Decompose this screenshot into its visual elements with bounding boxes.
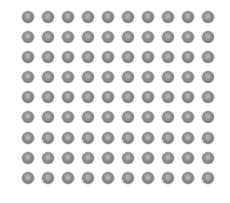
coin	[62, 31, 74, 43]
coin	[202, 31, 214, 43]
coin	[42, 31, 54, 43]
coin	[202, 132, 214, 144]
coin	[82, 71, 94, 83]
coin	[62, 152, 74, 164]
coin	[42, 71, 54, 83]
coin	[22, 71, 34, 83]
coin	[162, 91, 174, 103]
coin	[162, 71, 174, 83]
coin	[102, 11, 114, 23]
coin	[162, 11, 174, 23]
coin	[22, 111, 34, 123]
coin	[182, 152, 194, 164]
coin	[122, 91, 134, 103]
coin	[122, 31, 134, 43]
coin	[62, 111, 74, 123]
coin	[182, 91, 194, 103]
coin	[82, 11, 94, 23]
coin	[22, 172, 34, 184]
coin	[22, 152, 34, 164]
coin	[202, 91, 214, 103]
coin	[122, 11, 134, 23]
coin	[122, 132, 134, 144]
coin	[42, 172, 54, 184]
coin	[162, 51, 174, 63]
coin	[122, 71, 134, 83]
coin	[202, 71, 214, 83]
coin	[142, 91, 154, 103]
coin	[62, 51, 74, 63]
coin	[182, 111, 194, 123]
coin	[42, 11, 54, 23]
coin	[142, 71, 154, 83]
coin	[142, 172, 154, 184]
coin	[162, 31, 174, 43]
coin	[62, 71, 74, 83]
coin	[102, 111, 114, 123]
coin	[82, 91, 94, 103]
coin	[202, 11, 214, 23]
coin	[162, 111, 174, 123]
coin	[142, 31, 154, 43]
coin	[62, 132, 74, 144]
coin	[22, 11, 34, 23]
coin-grid	[22, 11, 214, 184]
coin	[162, 172, 174, 184]
coin	[162, 152, 174, 164]
coin	[102, 51, 114, 63]
coin	[182, 51, 194, 63]
coin	[42, 51, 54, 63]
coin	[162, 132, 174, 144]
coin	[142, 132, 154, 144]
coin	[42, 152, 54, 164]
coin	[62, 91, 74, 103]
coin	[22, 31, 34, 43]
coin	[202, 152, 214, 164]
coin	[182, 31, 194, 43]
coin	[202, 172, 214, 184]
coin	[82, 51, 94, 63]
coin	[142, 152, 154, 164]
coin	[42, 111, 54, 123]
coin	[102, 71, 114, 83]
coin	[182, 11, 194, 23]
coin	[202, 111, 214, 123]
coin	[122, 51, 134, 63]
coin	[122, 111, 134, 123]
coin	[42, 132, 54, 144]
coin	[62, 11, 74, 23]
coin	[142, 51, 154, 63]
coin	[22, 51, 34, 63]
coin	[82, 31, 94, 43]
coin	[102, 31, 114, 43]
coin	[82, 172, 94, 184]
coin	[42, 91, 54, 103]
coin	[182, 132, 194, 144]
coin	[22, 132, 34, 144]
coin	[102, 172, 114, 184]
coin	[62, 172, 74, 184]
coin	[22, 91, 34, 103]
coin	[102, 132, 114, 144]
coin	[102, 152, 114, 164]
coin	[182, 172, 194, 184]
coin	[142, 11, 154, 23]
coin	[82, 111, 94, 123]
coin	[182, 71, 194, 83]
coin	[122, 172, 134, 184]
coin	[142, 111, 154, 123]
coin	[202, 51, 214, 63]
coin	[122, 152, 134, 164]
coin	[102, 91, 114, 103]
coin	[82, 152, 94, 164]
coin	[82, 132, 94, 144]
